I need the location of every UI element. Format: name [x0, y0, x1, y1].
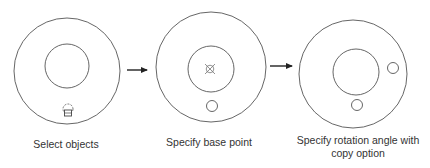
base-point-marker-icon [205, 64, 215, 74]
step-2-specify-base-point [156, 12, 266, 122]
outer-circle [156, 12, 266, 122]
selection-pickbox-icon [63, 104, 73, 116]
outer-circle [299, 20, 407, 128]
small-hole-circle [207, 101, 218, 112]
step-1-select-objects [14, 18, 120, 124]
rotated-copy-hole-circle [388, 63, 399, 74]
step-2-label: Specify base point [166, 136, 252, 149]
step-3-specify-rotation-angle [299, 20, 407, 128]
step-3-label: Specify rotation angle with copy option [293, 134, 423, 160]
original-hole-circle [352, 100, 363, 111]
inner-circle [45, 44, 89, 88]
outer-circle [14, 18, 120, 124]
step-1-label: Select objects [33, 138, 98, 151]
inner-circle [333, 49, 379, 95]
inner-circle [188, 46, 234, 92]
